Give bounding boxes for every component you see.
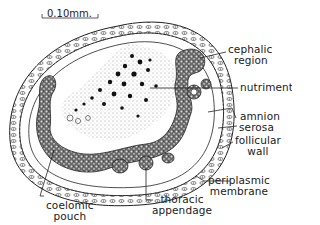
label-cephalic-line2: region [228,55,272,66]
label-thoracic-appendage: thoracic appendage [152,194,212,216]
label-coelomic-line2: pouch [46,211,94,222]
label-follicular-wall: follicular wall [235,135,281,157]
label-serosa: serosa [239,122,274,133]
label-periplasmic-line2: membrane [208,186,270,197]
label-coelomic-pouch: coelomic pouch [46,200,94,222]
label-cephalic-region: cephalic region [228,44,272,66]
scale-bar-label: 0.10mm. [47,8,92,19]
label-follicular-line2: wall [235,146,281,157]
label-nutriment: nutriment [240,82,292,93]
label-periplasmic-membrane: periplasmic membrane [208,175,270,197]
label-thoracic-line2: appendage [152,205,212,216]
